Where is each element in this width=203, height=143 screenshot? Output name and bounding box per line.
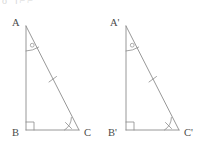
- angle-arc-c-prime: [165, 118, 172, 131]
- vertex-label-c-prime: C': [184, 127, 193, 138]
- vertex-label-b: B: [12, 127, 19, 138]
- vertex-label-a-prime: A': [110, 17, 120, 28]
- right-angle-square-b-prime: [126, 122, 134, 130]
- vertex-label-b-prime: B': [108, 127, 117, 138]
- triangle-a-prime-b-prime-c-prime: A' B' C': [108, 17, 193, 138]
- vertex-label-c: C: [84, 127, 91, 138]
- figure-canvas: A B C A' B' C': [0, 0, 203, 143]
- angle-circle-mark-a: [30, 43, 34, 47]
- angle-circle-mark-a-prime: [130, 43, 134, 47]
- right-angle-square-b: [26, 122, 34, 130]
- hypotenuse-tick-ac: [49, 77, 57, 83]
- segment-a-prime-c-prime: [126, 26, 179, 130]
- hypotenuse-tick-a-prime-c-prime: [149, 77, 157, 83]
- top-text-fragment: o ।⌐⌐: [2, 0, 35, 6]
- segment-ac: [26, 26, 79, 130]
- angle-arc-c: [65, 118, 72, 131]
- geometry-figure: o ।⌐⌐ A B C: [0, 0, 203, 143]
- triangle-abc: A B C: [12, 17, 91, 138]
- vertex-label-a: A: [12, 17, 20, 28]
